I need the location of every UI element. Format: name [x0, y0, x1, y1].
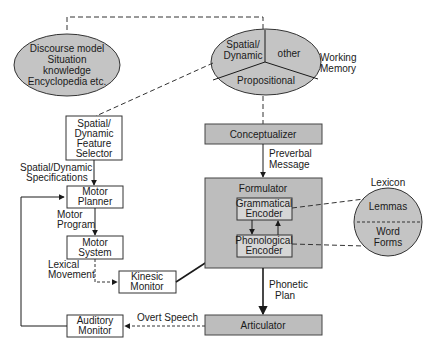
phonetic-label-2: Plan: [275, 290, 295, 301]
auditory-line-2: Monitor: [78, 325, 112, 336]
discourse-line-1: Discourse model: [30, 43, 104, 54]
overt-speech-label: Overt Speech: [137, 312, 198, 323]
lexicon-title: Lexicon: [371, 177, 405, 188]
feature-selector-node: Spatial/ Dynamic Feature Selector: [66, 116, 122, 160]
articulator-label: Articulator: [240, 320, 286, 331]
articulator-node: Articulator: [205, 315, 322, 335]
discourse-line-3: knowledge: [43, 65, 91, 76]
system-to-kinesic-arrow: [95, 259, 117, 282]
auditory-monitor-node: Auditory Monitor: [67, 315, 123, 337]
conceptualizer-label: Conceptualizer: [230, 129, 297, 140]
discourse-wm-connector: [67, 17, 263, 30]
system-line-2: System: [78, 247, 111, 258]
feature-line-4: Selector: [76, 148, 113, 159]
working-memory-label-2: Memory: [320, 63, 356, 74]
motor-system-node: Motor System: [67, 236, 123, 259]
formulator-label: Formulator: [239, 183, 288, 194]
lexicon-forms-line: Forms: [374, 237, 402, 248]
planner-line-2: Planner: [78, 196, 113, 207]
lexicon-word-line: Word: [376, 226, 400, 237]
discourse-model-node: Discourse model Situation knowledge Ency…: [14, 34, 120, 96]
preverbal-label-1: Preverbal: [269, 148, 312, 159]
wm-propositional: Propositional: [237, 75, 295, 86]
kinesic-monitor-node: Kinesic Monitor: [119, 271, 176, 293]
phonetic-label-1: Phonetic: [269, 279, 308, 290]
lexicon-lemmas: Lemmas: [369, 201, 407, 212]
lexical-movement-label-2: Movement: [48, 269, 95, 280]
working-memory-node: Spatial/ Dynamic other Propositional: [211, 29, 321, 95]
conceptualizer-node: Conceptualizer: [205, 124, 322, 144]
motor-program-label-2: Program: [57, 219, 95, 230]
discourse-line-2: Situation: [48, 54, 87, 65]
formulator-node: Formulator Grammatical Encoder Phonologi…: [205, 178, 322, 268]
lexicon-node: Lemmas Word Forms: [354, 188, 422, 256]
spatial-specs-label-2: Specifications: [26, 172, 88, 183]
working-memory-label-1: Working: [320, 52, 357, 63]
grammatical-line-2: Encoder: [245, 208, 283, 219]
speech-gesture-model-diagram: Discourse model Situation knowledge Ency…: [0, 0, 440, 354]
kinesic-line-2: Monitor: [130, 281, 164, 292]
phonological-line-2: Encoder: [245, 245, 283, 256]
wm-spatial-line-2: Dynamic: [224, 50, 263, 61]
discourse-line-4: Encyclopedia etc.: [28, 76, 106, 87]
wm-spatial-line-1: Spatial/: [226, 39, 260, 50]
preverbal-label-2: Message: [269, 159, 310, 170]
wm-other: other: [278, 48, 301, 59]
motor-planner-node: Motor Planner: [67, 186, 123, 208]
